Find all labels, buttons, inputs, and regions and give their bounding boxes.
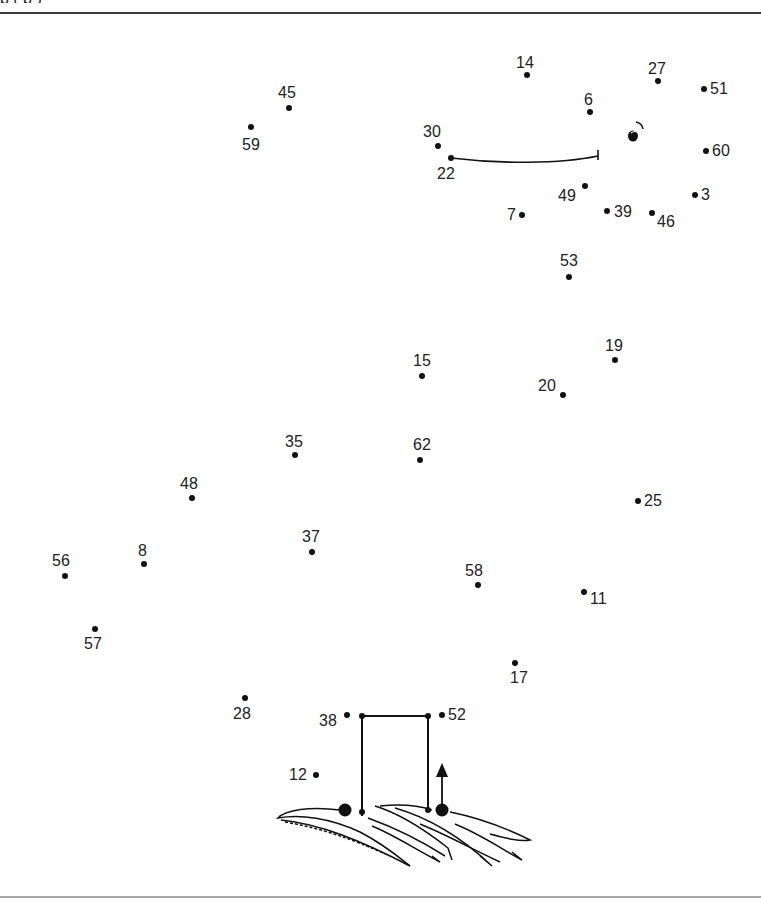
puzzle-dot <box>587 109 593 115</box>
puzzle-dot <box>566 274 572 280</box>
puzzle-dot <box>344 712 350 718</box>
puzzle-dot <box>419 373 425 379</box>
dot-number-label: 49 <box>558 188 576 204</box>
dot-number-label: 11 <box>590 591 607 607</box>
pre-drawn-lines <box>0 0 761 917</box>
puzzle-dot <box>448 155 454 161</box>
puzzle-dot <box>701 86 707 92</box>
grass-leaves-icon <box>278 805 530 866</box>
puzzle-dot <box>248 124 254 130</box>
dot-number-label: 60 <box>712 143 730 159</box>
bottom-divider <box>0 896 761 898</box>
puzzle-dot <box>581 589 587 595</box>
dot-number-label: 38 <box>319 713 337 729</box>
dot-number-label: 8 <box>138 543 147 559</box>
dot-number-label: 57 <box>84 636 102 652</box>
dot-number-label: 3 <box>701 187 710 203</box>
dot-number-label: 35 <box>285 434 303 450</box>
dot-number-label: 27 <box>648 61 666 77</box>
dot-number-label: 45 <box>278 85 296 101</box>
dot-number-label: 48 <box>180 476 198 492</box>
dot-number-label: 59 <box>242 137 260 153</box>
dot-number-label: 19 <box>605 338 623 354</box>
puzzle-dot <box>313 772 319 778</box>
dot-number-label: 14 <box>516 55 534 71</box>
puzzle-dot <box>612 357 618 363</box>
dot-to-dot-puzzle: 1427514565930602249339467531915203562482… <box>0 0 761 917</box>
dot-number-label: 12 <box>289 767 307 783</box>
puzzle-dot <box>655 78 661 84</box>
puzzle-dot <box>512 660 518 666</box>
puzzle-dot <box>435 143 441 149</box>
puzzle-dot <box>635 498 641 504</box>
dot-number-label: 20 <box>538 378 556 394</box>
puzzle-dot <box>417 457 423 463</box>
puzzle-dot <box>703 148 709 154</box>
puzzle-dot <box>560 392 566 398</box>
dot-number-label: 7 <box>507 207 516 223</box>
puzzle-dot <box>475 582 481 588</box>
puzzle-dot <box>141 561 147 567</box>
puzzle-dot <box>519 212 525 218</box>
eye-icon <box>628 122 643 142</box>
puzzle-dot <box>92 626 98 632</box>
dot-number-label: 62 <box>413 437 431 453</box>
dot-number-label: 56 <box>52 553 70 569</box>
dot-number-label: 39 <box>614 204 632 220</box>
puzzle-dot <box>292 452 298 458</box>
puzzle-dot <box>692 192 698 198</box>
dot-number-label: 52 <box>448 707 466 723</box>
dot-number-label: 15 <box>413 353 431 369</box>
dot-number-label: 17 <box>510 670 528 686</box>
puzzle-dot <box>604 208 610 214</box>
puzzle-dot <box>439 712 445 718</box>
puzzle-dot <box>309 549 315 555</box>
dot-number-label: 25 <box>644 493 662 509</box>
dot-number-label: 22 <box>437 166 455 182</box>
puzzle-dot <box>62 573 68 579</box>
dot-number-label: 51 <box>710 81 728 97</box>
puzzle-dot <box>189 495 195 501</box>
start-arrow-icon <box>436 763 448 804</box>
dot-number-label: 46 <box>657 214 675 230</box>
dot-number-label: 37 <box>302 529 320 545</box>
dot-number-label: 30 <box>423 124 441 140</box>
puzzle-dot <box>582 183 588 189</box>
dot-number-label: 53 <box>560 253 578 269</box>
puzzle-dot <box>286 105 292 111</box>
dot-number-label: 28 <box>233 706 251 722</box>
puzzle-dot <box>524 72 530 78</box>
dot-number-label: 58 <box>465 563 483 579</box>
puzzle-dot <box>242 695 248 701</box>
dot-number-label: 6 <box>584 92 593 108</box>
puzzle-dot <box>649 210 655 216</box>
